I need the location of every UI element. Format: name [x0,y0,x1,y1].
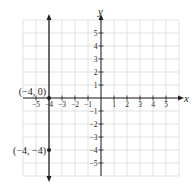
y-tick-label: 4 [94,42,98,51]
y-tick-label: 1 [94,81,98,90]
x-tick-label: −5 [32,100,40,109]
line-arrow-down-icon [47,176,52,182]
point-label: (−4, 0) [19,86,46,98]
y-tick-label: 2 [94,68,98,77]
data-point [47,148,51,152]
x-axis-label: x [183,92,189,104]
axes [23,14,184,176]
y-tick-label: −1 [90,107,98,116]
x-tick-label: 3 [138,100,142,109]
y-tick-label: −4 [90,146,98,155]
x-tick-label: −3 [58,100,66,109]
x-tick-label: 2 [125,100,129,109]
y-tick-label: −3 [90,133,98,142]
x-tick-label: 1 [112,100,116,109]
y-axis-label: y [97,5,103,17]
y-tick-label: 3 [94,55,98,64]
line-arrow-up-icon [47,14,52,20]
data-point [47,96,51,100]
coordinate-plane: −5−4−3−2−11234554321−1−2−3−4−5 (−4, 0)(−… [0,0,194,184]
y-tick-label: 5 [94,29,98,38]
y-tick-label: −5 [90,159,98,168]
x-tick-label: 4 [151,100,155,109]
y-tick-label: −2 [90,120,98,129]
point-label: (−4, −4) [13,145,46,157]
x-tick-label: 5 [164,100,168,109]
x-tick-label: −2 [71,100,79,109]
